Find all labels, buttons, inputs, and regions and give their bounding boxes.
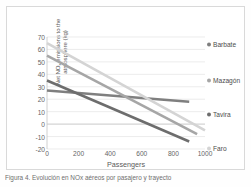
- legend-item-barbate[interactable]: Barbate: [207, 41, 236, 48]
- y-tick-label: 10: [29, 108, 45, 115]
- y-tick-label: 20: [29, 96, 45, 103]
- figure-container: Net NOx emissions to the atmosphere (kg)…: [0, 0, 251, 187]
- y-tick-label: -20: [29, 146, 45, 153]
- legend-label: Faro: [213, 145, 227, 152]
- legend-label: Barbate: [213, 41, 236, 48]
- plot-svg: [47, 37, 205, 149]
- y-tick-label: 0: [29, 121, 45, 128]
- y-tick-label: 30: [29, 83, 45, 90]
- chart-frame: Net NOx emissions to the atmosphere (kg)…: [6, 6, 245, 170]
- y-axis-ticks: 706050403020100-10-20: [27, 37, 45, 149]
- series-lines: [47, 43, 205, 141]
- chart-legend: BarbateMazagónTaviraFaro: [207, 37, 251, 155]
- legend-marker-icon: [207, 112, 211, 116]
- x-tick-label: 600: [136, 150, 147, 157]
- y-tick-label: 50: [29, 58, 45, 65]
- legend-item-faro[interactable]: Faro: [207, 145, 227, 152]
- plot-area: [47, 37, 205, 149]
- legend-marker-icon: [207, 78, 211, 82]
- y-tick-label: 70: [29, 34, 45, 41]
- y-tick-label: -10: [29, 133, 45, 140]
- legend-item-tavira[interactable]: Tavira: [207, 111, 231, 118]
- legend-marker-icon: [207, 146, 211, 150]
- figure-caption: Figura 4. Evolución en NOx aéreos por pa…: [5, 174, 249, 186]
- legend-label: Mazagón: [213, 77, 240, 84]
- x-tick-label: 800: [168, 150, 179, 157]
- x-tick-label: 0: [45, 150, 49, 157]
- series-line-mazag-n: [47, 56, 197, 134]
- legend-item-mazag-n[interactable]: Mazagón: [207, 77, 240, 84]
- x-tick-label: 200: [73, 150, 84, 157]
- x-axis-label: Passengers: [47, 160, 205, 169]
- y-tick-label: 60: [29, 46, 45, 53]
- legend-marker-icon: [207, 42, 211, 46]
- x-tick-label: 400: [105, 150, 116, 157]
- y-tick-label: 40: [29, 71, 45, 78]
- legend-label: Tavira: [213, 111, 231, 118]
